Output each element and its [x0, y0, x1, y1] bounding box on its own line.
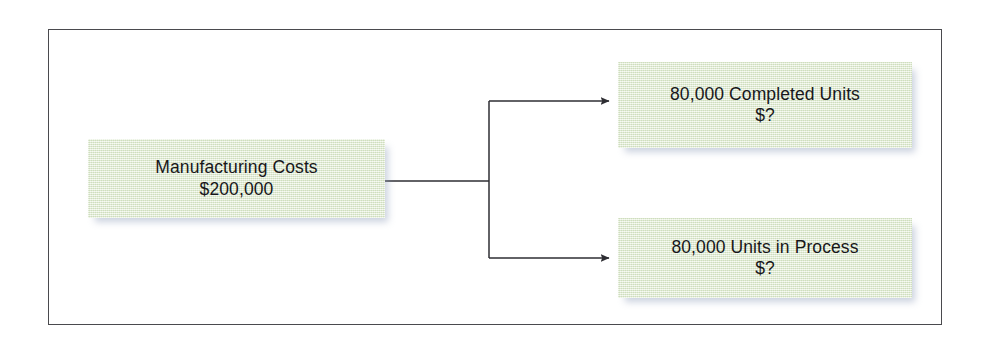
node-completed-units-amount: $? — [755, 105, 775, 126]
node-completed-units-label: 80,000 Completed Units — [670, 84, 860, 105]
node-units-in-process-label: 80,000 Units in Process — [671, 237, 858, 258]
node-manufacturing-costs-label: Manufacturing Costs — [155, 157, 317, 178]
node-manufacturing-costs-amount: $200,000 — [200, 179, 274, 200]
node-manufacturing-costs: Manufacturing Costs $200,000 — [88, 139, 385, 218]
node-completed-units: 80,000 Completed Units $? — [618, 62, 912, 148]
diagram-canvas: Manufacturing Costs $200,000 80,000 Comp… — [0, 0, 989, 349]
node-units-in-process-amount: $? — [755, 258, 775, 279]
node-units-in-process: 80,000 Units in Process $? — [618, 218, 912, 298]
